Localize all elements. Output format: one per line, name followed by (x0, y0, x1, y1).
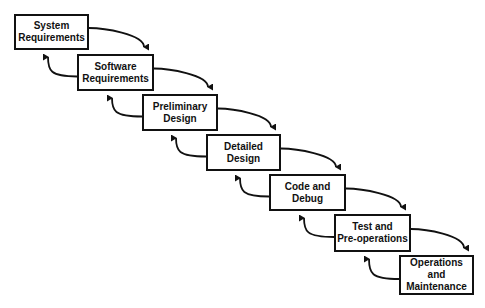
stage-box-s3: Preliminary Design (142, 94, 218, 131)
forward-arrow (218, 109, 271, 128)
stage-label: Operations and Maintenance (406, 257, 467, 293)
feedback-arrow (48, 57, 77, 77)
stage-box-s4: Detailed Design (206, 134, 281, 171)
stage-box-s1: System Requirements (14, 14, 89, 50)
feedback-arrow (369, 259, 399, 279)
stage-label: System Requirements (18, 20, 85, 44)
stage-label: Preliminary Design (153, 101, 207, 125)
stage-box-s7: Operations and Maintenance (399, 255, 474, 295)
stage-label: Code and Debug (285, 181, 331, 205)
forward-arrow (154, 69, 208, 88)
stage-box-s5: Code and Debug (269, 174, 346, 211)
feedback-arrow (240, 178, 269, 197)
stage-label: Test and Pre-operations (337, 221, 408, 245)
feedback-arrow (176, 138, 206, 157)
forward-arrow (346, 189, 401, 208)
stage-box-s6: Test and Pre-operations (334, 214, 411, 252)
stage-box-s2: Software Requirements (77, 54, 154, 91)
forward-arrow (89, 28, 144, 47)
feedback-arrow (112, 98, 142, 117)
feedback-arrow (304, 218, 334, 237)
forward-arrow (411, 229, 464, 248)
stage-label: Software Requirements (82, 61, 149, 85)
stage-label: Detailed Design (224, 141, 263, 165)
forward-arrow (281, 149, 336, 168)
